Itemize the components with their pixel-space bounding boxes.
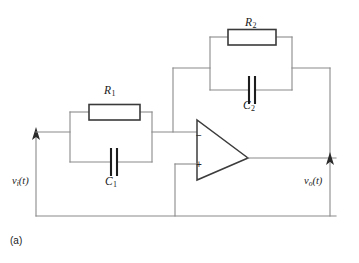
input-source-branch <box>32 127 70 216</box>
noninverting-input-sign: + <box>196 160 202 170</box>
output-voltage-label: vo(t) <box>304 176 322 188</box>
figure-caption: (a) <box>10 236 22 246</box>
resistor-r1-label: R1 <box>104 85 115 98</box>
resistor-r2-label: R2 <box>245 17 256 30</box>
resistor-r1-body <box>89 105 140 121</box>
capacitor-c2-label: C2 <box>243 100 255 113</box>
circuit-figure: R1 C1 R2 C2 vi(t) vo(t) − + (a) <box>0 0 359 263</box>
circuit-schematic <box>0 0 359 263</box>
input-rc-network <box>70 105 197 177</box>
inverting-input-sign: − <box>196 131 202 141</box>
resistor-r2-body <box>228 30 276 46</box>
input-voltage-label: vi(t) <box>12 176 29 188</box>
opamp-triangle <box>197 120 248 180</box>
output-branch <box>326 152 334 216</box>
capacitor-c1-label: C1 <box>105 176 117 189</box>
